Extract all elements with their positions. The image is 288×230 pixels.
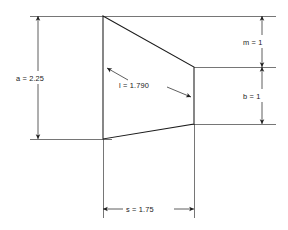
trapezoid-outline (103, 16, 194, 139)
dimension-label-a: a = 2.25 (16, 74, 44, 83)
dimension-label-l: l = 1.790 (119, 81, 149, 90)
dimension-tip-height: b = 1 (240, 67, 274, 124)
dimension-diagram: a = 2.25 l = 1.790 m = 1 b = 1 s = 1.75 (0, 0, 288, 230)
dimension-label-b: b = 1 (243, 92, 260, 101)
dimension-label-s: s = 1.75 (126, 205, 154, 214)
dimension-label-m: m = 1 (243, 38, 262, 47)
dimension-span: s = 1.75 (103, 203, 194, 216)
drawing-canvas: a = 2.25 l = 1.790 m = 1 b = 1 s = 1.75 (0, 0, 288, 230)
dimension-upper-offset: m = 1 (240, 16, 276, 67)
dimension-root-height: a = 2.25 (13, 16, 61, 139)
